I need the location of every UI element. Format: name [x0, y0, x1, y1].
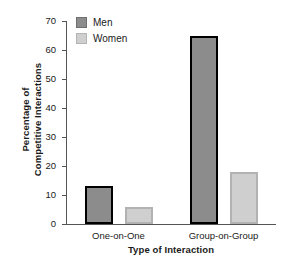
legend-label-women: Women: [93, 33, 127, 44]
y-axis-tick: 30: [62, 137, 66, 138]
y-axis-title: Percentage of Competitive Interactions: [20, 25, 43, 215]
y-axis-line: [66, 21, 67, 224]
legend-swatch-women-icon: [76, 33, 87, 44]
bar-men-group-on-group: [190, 36, 218, 225]
bar-women-group-on-group: [230, 172, 258, 224]
y-axis-tick-label: 50: [45, 74, 56, 84]
y-axis-tick-label: 70: [45, 16, 56, 26]
bar-chart-figure: Percentage of Competitive Interactions 0…: [0, 0, 290, 266]
legend-swatch-men-icon: [76, 17, 87, 28]
y-axis-tick: 70: [62, 21, 66, 22]
y-axis-tick-label: 0: [51, 219, 56, 229]
y-axis-tick-label: 10: [45, 190, 56, 200]
y-axis-tick-label: 40: [45, 103, 56, 113]
y-axis-tick-label: 20: [45, 161, 56, 171]
bar-men-one-on-one: [85, 186, 113, 224]
x-axis-title: Type of Interaction: [66, 244, 276, 255]
bar-women-one-on-one: [125, 207, 153, 224]
x-axis-category-label: Group-on-Group: [189, 230, 259, 241]
plot-area: 010203040506070 One-on-OneGroup-on-Group: [66, 21, 276, 224]
y-axis-tick: 20: [62, 166, 66, 167]
legend: Men Women: [76, 15, 127, 47]
y-axis-tick: 60: [62, 50, 66, 51]
y-axis-tick-label: 60: [45, 45, 56, 55]
y-axis-tick: 40: [62, 108, 66, 109]
legend-label-men: Men: [93, 17, 112, 28]
y-axis-tick: 0: [62, 224, 66, 225]
y-axis-tick-label: 30: [45, 132, 56, 142]
legend-item-women: Women: [76, 31, 127, 45]
y-axis-tick: 10: [62, 195, 66, 196]
x-axis-line: [66, 224, 276, 225]
x-axis-category-label: One-on-One: [92, 230, 145, 241]
legend-item-men: Men: [76, 15, 127, 29]
y-axis-tick: 50: [62, 79, 66, 80]
